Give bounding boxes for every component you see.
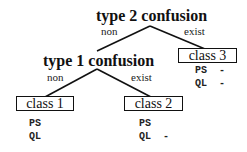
root-edge-label-exist: exist xyxy=(184,26,205,37)
leaf-class-2-attrs: PS QL - xyxy=(139,117,169,143)
leaf-class-2: class 2 xyxy=(124,96,183,111)
root-edge-label-non: non xyxy=(101,26,118,37)
leaf-class-3-attrs: PS - QL - xyxy=(195,64,225,90)
attr-mark: - xyxy=(163,131,169,142)
attr-name: QL xyxy=(139,131,151,142)
attr-name: QL xyxy=(29,131,41,142)
attr-name: QL xyxy=(195,78,207,89)
attr-name: PS xyxy=(195,65,207,76)
leaf-class-1-attrs: PS QL xyxy=(29,117,53,143)
inner-node-type1-confusion: type 1 confusion xyxy=(43,53,154,69)
inner-edge-label-non: non xyxy=(47,72,64,83)
attr-mark: - xyxy=(219,78,225,89)
inner-edge-label-exist: exist xyxy=(131,72,152,83)
attr-name: PS xyxy=(139,118,151,129)
leaf-class-1: class 1 xyxy=(16,96,74,111)
root-node-type2-confusion: type 2 confusion xyxy=(96,8,207,24)
decision-tree-diagram: type 2 confusion non exist type 1 confus… xyxy=(0,0,247,152)
attr-mark: - xyxy=(219,65,225,76)
leaf-class-3: class 3 xyxy=(178,48,237,63)
attr-name: PS xyxy=(29,118,41,129)
